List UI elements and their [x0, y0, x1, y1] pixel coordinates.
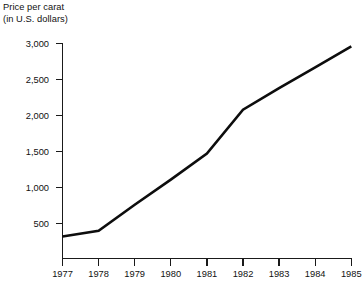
y-axis-label-2500: 2,500: [26, 75, 49, 85]
x-axis-label-1985: 1985: [341, 269, 362, 279]
y-axis-labels: 3,000 2,500 2,000 1,500 1,000 500: [26, 39, 49, 229]
x-axis-label-1977: 1977: [52, 269, 73, 279]
x-axis-label-1983: 1983: [269, 269, 290, 279]
line-chart: Price per carat (in U.S. dollars) 3,000 …: [0, 0, 362, 282]
y-axis-label-2000: 2,000: [26, 111, 49, 121]
x-axis-label-1980: 1980: [160, 269, 181, 279]
x-axis-label-1979: 1979: [124, 269, 145, 279]
y-axis-label-1500: 1,500: [26, 147, 49, 157]
x-axis-label-1982: 1982: [233, 269, 254, 279]
y-axis-label-3000: 3,000: [26, 39, 49, 49]
y-axis-label-500: 500: [33, 219, 49, 229]
x-axis-label-1981: 1981: [197, 269, 218, 279]
y-axis-ticks: [56, 44, 63, 224]
x-axis-label-1984: 1984: [305, 269, 326, 279]
x-axis-label-1978: 1978: [88, 269, 109, 279]
plot-area: 3,000 2,500 2,000 1,500 1,000 500 1977 1…: [0, 0, 362, 282]
x-axis-labels: 1977 1978 1979 1980 1981 1982 1983 1984 …: [52, 269, 361, 279]
y-axis-label-1000: 1,000: [26, 183, 49, 193]
x-axis-ticks: [63, 259, 352, 266]
data-series-line: [63, 46, 352, 236]
